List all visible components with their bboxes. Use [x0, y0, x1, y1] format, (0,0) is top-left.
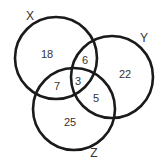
region-x-z: 7: [54, 80, 60, 92]
circle-y: [71, 36, 153, 118]
label-y: Y: [140, 31, 148, 45]
region-y-z: 5: [93, 92, 99, 104]
region-x-y-z: 3: [75, 75, 81, 87]
label-x: X: [26, 9, 34, 23]
region-y-only: 22: [119, 68, 131, 80]
label-z: Z: [90, 146, 97, 160]
region-x-only: 18: [41, 48, 53, 60]
venn-diagram: X Y Z 18 6 22 7 3 5 25: [0, 0, 162, 161]
region-x-y: 6: [82, 54, 88, 66]
region-z-only: 25: [64, 116, 76, 128]
